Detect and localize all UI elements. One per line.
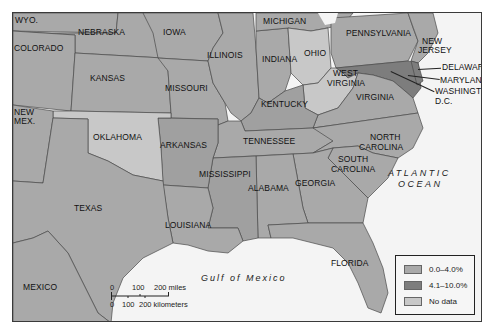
state-pennsylvania[interactable] [331,13,418,68]
legend-label-no-data: No data [429,297,457,306]
scale-miles-200: 200 miles [154,283,186,292]
label-arkansas: ARKANSAS [160,141,207,150]
label-missouri: MISSOURI [165,84,208,93]
scale-km-0: 0 [110,300,114,309]
label-iowa: IOWA [163,28,186,37]
label-ohio: OHIO [304,49,326,58]
label-kentucky: KENTUCKY [261,100,308,109]
scale-km-200: 200 kilometers [139,300,188,309]
label-washington-dc-1: WASHINGTON, [435,87,482,96]
legend-label-low: 0.0–4.0% [429,265,463,274]
label-texas: TEXAS [74,204,102,213]
label-south-carolina-2: CAROLINA [331,165,375,174]
label-virginia: VIRGINIA [356,93,394,102]
legend-swatch-no-data [404,297,422,306]
label-indiana: INDIANA [262,55,297,64]
legend-label-high: 4.1–10.0% [429,281,467,290]
label-atlantic-ocean-1: ATLANTIC [388,168,451,178]
scale-bar-line [111,292,171,300]
label-washington-dc-2: D.C. [435,97,452,106]
label-new-mexico-2: MEX. [14,117,35,126]
label-florida: FLORIDA [331,259,369,268]
label-south-carolina-1: SOUTH [338,155,368,164]
label-mexico: MEXICO [23,283,57,292]
label-georgia: GEORGIA [295,179,335,188]
scale-km-100: 100 [122,300,135,309]
legend-item-low: 0.0–4.0% [404,265,463,274]
label-kansas: KANSAS [90,74,125,83]
label-atlantic-ocean-2: OCEAN [398,179,443,189]
label-pennsylvania: PENNSYLVANIA [346,29,411,38]
legend-swatch-high [404,281,422,290]
label-new-jersey-2: JERSEY [418,46,452,55]
legend-item-high: 4.1–10.0% [404,281,467,290]
label-maryland: MARYLAND [440,76,482,85]
legend-item-no-data: No data [404,297,457,306]
label-michigan: MICHIGAN [263,17,306,26]
label-nebraska: NEBRASKA [78,28,125,37]
label-north-carolina-2: CAROLINA [359,143,403,152]
label-west-virginia-2: VIRGINIA [327,79,365,88]
label-tennessee: TENNESSEE [243,137,295,146]
label-alabama: ALABAMA [248,184,289,193]
scale-bar: 0 100 200 miles 0 100 200 kilometers [97,283,207,315]
state-kansas[interactable] [71,53,171,113]
label-colorado: COLORADO [14,44,63,53]
scale-miles-100: 100 [132,283,145,292]
label-delaware: DELAWARE [442,63,482,72]
label-illinois: ILLINOIS [207,51,243,60]
label-north-carolina-1: NORTH [370,133,401,142]
label-gulf-of-mexico: Gulf of Mexico [201,273,287,283]
label-oklahoma: OKLAHOMA [93,133,142,142]
scale-miles-0: 0 [110,283,114,292]
label-wyoming: WYO. [15,16,38,25]
legend: 0.0–4.0% 4.1–10.0% No data [395,255,475,315]
label-louisiana: LOUISIANA [165,221,211,230]
label-mississippi: MISSISSIPPI [199,170,251,179]
label-west-virginia-1: WEST [333,69,358,78]
legend-swatch-low [404,265,422,274]
